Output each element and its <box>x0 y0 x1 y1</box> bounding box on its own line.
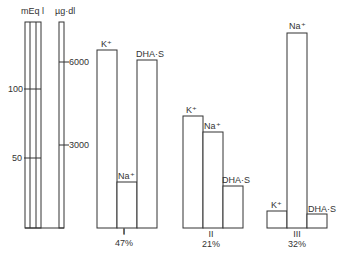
svg-text:K⁺: K⁺ <box>186 105 197 115</box>
svg-text:21%: 21% <box>202 239 220 249</box>
ugdl-axis: µg·dl 6000 3000 <box>25 6 89 228</box>
group-3: K⁺ Na⁺ DHA·S III 32% <box>267 21 336 249</box>
bar-k-2 <box>183 116 203 228</box>
svg-text:Na⁺: Na⁺ <box>289 21 306 31</box>
chart: mEq l 100 50 µg·dl 6000 3000 K⁺ Na⁺ DHA·… <box>0 0 343 255</box>
bar-dhas-2 <box>223 186 243 228</box>
bar-na-3 <box>287 33 307 228</box>
svg-text:I: I <box>123 227 126 237</box>
tick-50: 50 <box>12 153 22 163</box>
bar-na-2 <box>203 132 223 228</box>
bar-dhas-1 <box>137 60 157 228</box>
svg-text:32%: 32% <box>288 239 306 249</box>
axis-label-ugdl: µg·dl <box>55 6 75 16</box>
bar-na-1 <box>117 182 137 228</box>
group-1: K⁺ Na⁺ DHA·S I 47% <box>97 39 164 248</box>
svg-text:III: III <box>293 229 301 239</box>
bar-k-1 <box>97 50 117 228</box>
bar-dhas-3 <box>307 214 327 228</box>
svg-text:Na⁺: Na⁺ <box>118 171 135 181</box>
svg-text:47%: 47% <box>115 238 133 248</box>
svg-text:Na⁺: Na⁺ <box>204 121 221 131</box>
tick-100: 100 <box>8 84 23 94</box>
bar-k-3 <box>267 211 287 228</box>
svg-text:K⁺: K⁺ <box>271 200 282 210</box>
svg-text:DHA·S: DHA·S <box>222 175 250 185</box>
tick-3000: 3000 <box>69 140 89 150</box>
meq-axis: mEq l 100 50 <box>8 6 44 228</box>
svg-text:K⁺: K⁺ <box>101 39 112 49</box>
svg-text:DHA·S: DHA·S <box>308 204 336 214</box>
svg-text:DHA·S: DHA·S <box>136 49 164 59</box>
group-2: K⁺ Na⁺ DHA·S II 21% <box>183 105 250 249</box>
svg-text:II: II <box>208 229 213 239</box>
axis-label-meq: mEq l <box>21 6 44 16</box>
tick-6000: 6000 <box>69 57 89 67</box>
